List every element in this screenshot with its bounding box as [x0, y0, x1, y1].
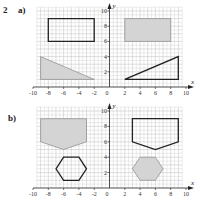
x-tick-label: 10	[183, 90, 189, 96]
pentagon-left	[41, 119, 87, 150]
x-tick-label: 8	[169, 90, 172, 96]
x-tick-label: -8	[46, 191, 51, 197]
y-tick-label: 6	[104, 139, 107, 145]
x-tick-label: -6	[61, 90, 66, 96]
x-tick-label: -4	[76, 90, 81, 96]
y-tick-label: 2	[104, 69, 107, 75]
x-tick-label: 8	[169, 191, 172, 197]
x-tick-label: 6	[154, 90, 157, 96]
y-tick-label: 4	[104, 154, 107, 160]
hexagon-right	[132, 157, 163, 180]
y-tick-label: 8	[104, 23, 107, 29]
x-tick-label: 2	[123, 191, 126, 197]
x-tick-label: -2	[92, 90, 97, 96]
x-axis-label: x	[190, 78, 195, 86]
y-tick-label: 10	[101, 108, 107, 114]
coordinate-grid-b: -10-8-6-4-22468102468100xy	[0, 100, 200, 203]
y-tick-label: 6	[104, 38, 107, 44]
y-axis-arrow-icon	[108, 103, 112, 109]
x-axis-label: x	[190, 179, 195, 187]
y-tick-label: 10	[101, 8, 107, 14]
x-tick-label: 4	[139, 90, 142, 96]
x-tick-label: -10	[29, 191, 37, 197]
x-tick-label: -2	[92, 191, 97, 197]
x-tick-label: 2	[123, 90, 126, 96]
y-tick-label: 4	[104, 54, 107, 60]
coordinate-grid-a: -10-8-6-4-22468102468100xy	[0, 0, 200, 100]
origin-label: 0	[106, 191, 109, 197]
x-tick-label: -6	[61, 191, 66, 197]
x-tick-label: 6	[154, 191, 157, 197]
y-tick-label: 8	[104, 123, 107, 129]
x-tick-label: 4	[139, 191, 142, 197]
origin-label: 0	[106, 90, 109, 96]
y-axis-arrow-icon	[108, 3, 112, 9]
y-axis-label: y	[112, 102, 117, 110]
y-tick-label: 2	[104, 170, 107, 176]
rectangle-right	[125, 19, 171, 42]
x-tick-label: 10	[183, 191, 189, 197]
x-tick-label: -4	[76, 191, 81, 197]
x-tick-label: -10	[29, 90, 37, 96]
x-tick-label: -8	[46, 90, 51, 96]
y-axis-label: y	[112, 2, 117, 10]
